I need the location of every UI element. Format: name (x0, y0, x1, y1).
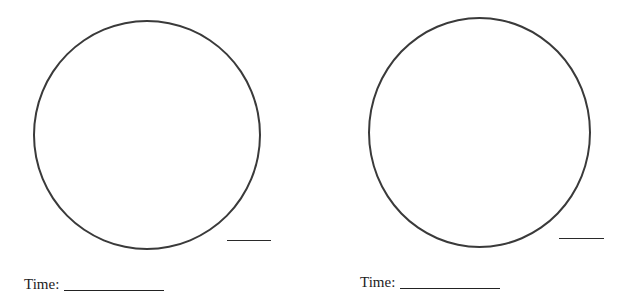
time-label: Time: (360, 274, 395, 291)
clock-face-circle (33, 20, 261, 250)
clock-face-circle (368, 17, 591, 248)
time-answer-field[interactable] (64, 290, 164, 291)
time-label: Time: (24, 276, 59, 293)
answer-blank-line[interactable] (559, 238, 604, 239)
time-answer-field[interactable] (400, 288, 500, 289)
answer-blank-line[interactable] (227, 240, 271, 241)
